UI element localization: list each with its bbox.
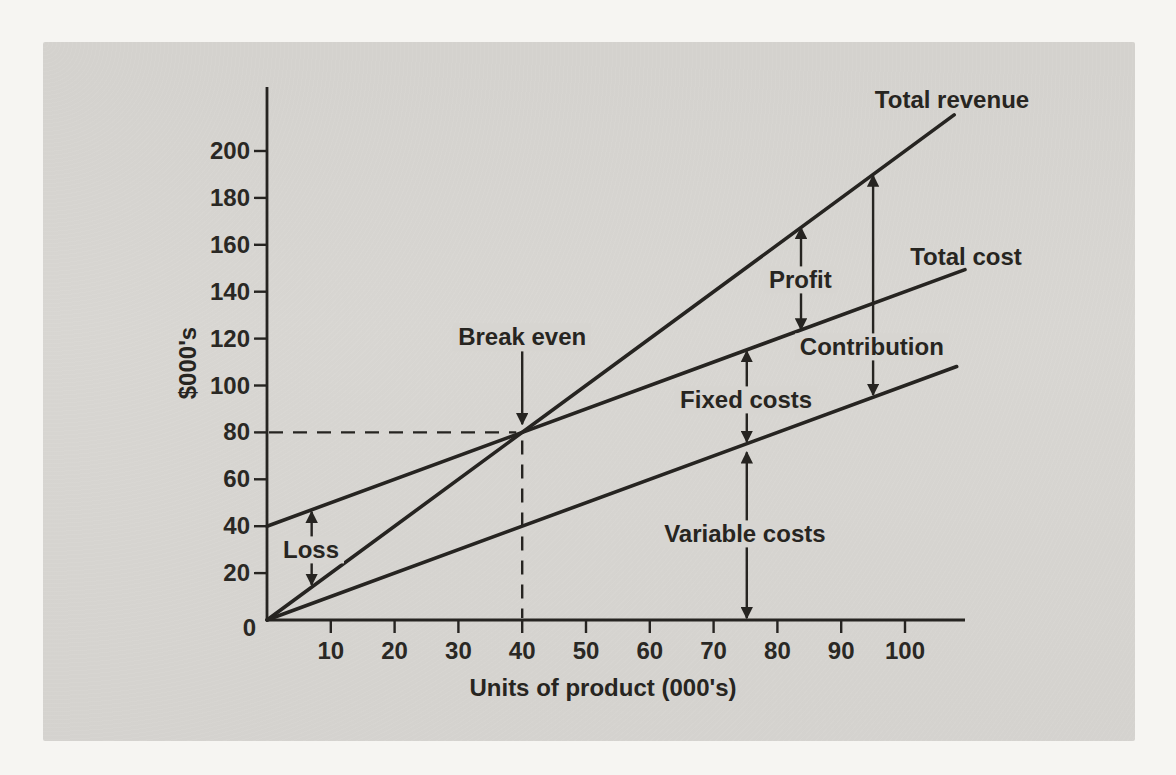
- origin-tick-label: 0: [243, 616, 256, 640]
- annotation-label-profit: Profit: [764, 266, 837, 293]
- y-tick-label-80: 80: [223, 420, 250, 444]
- y-tick-label-20: 20: [223, 561, 250, 585]
- x-tick-label-10: 10: [317, 639, 344, 663]
- annotation-label-variable-costs: Variable costs: [659, 520, 830, 547]
- y-tick-label-40: 40: [223, 514, 250, 538]
- y-tick-label-60: 60: [223, 467, 250, 491]
- y-tick-label-200: 200: [210, 139, 250, 163]
- x-axis-title: Units of product (000's): [469, 674, 736, 702]
- annotation-label-contribution: Contribution: [795, 333, 949, 360]
- annotation-label-break-even: Break even: [453, 324, 591, 351]
- series-line-total-revenue: [267, 115, 954, 620]
- x-tick-label-50: 50: [573, 639, 600, 663]
- series-label-total-revenue: Total revenue: [875, 87, 1029, 112]
- series-line-variable-costs-line: [267, 367, 957, 620]
- x-tick-label-20: 20: [381, 639, 408, 663]
- y-tick-label-160: 160: [210, 233, 250, 257]
- y-tick-label-100: 100: [210, 374, 250, 398]
- x-tick-label-40: 40: [509, 639, 536, 663]
- y-tick-label-140: 140: [210, 280, 250, 304]
- x-tick-label-70: 70: [700, 639, 727, 663]
- x-tick-label-90: 90: [828, 639, 855, 663]
- x-tick-label-80: 80: [764, 639, 791, 663]
- x-tick-label-60: 60: [636, 639, 663, 663]
- y-axis-title: $000's: [174, 327, 202, 399]
- series-label-total-cost: Total cost: [910, 244, 1022, 269]
- x-tick-label-100: 100: [885, 639, 925, 663]
- y-tick-label-120: 120: [210, 327, 250, 351]
- x-tick-label-30: 30: [445, 639, 472, 663]
- series-line-total-cost: [267, 270, 965, 527]
- y-tick-label-180: 180: [210, 186, 250, 210]
- data-lines: [267, 115, 965, 620]
- breakeven-chart-figure: 20406080100120140160180200 1020304050607…: [0, 0, 1176, 775]
- annotation-label-loss: Loss: [278, 536, 344, 563]
- annotation-label-fixed-costs: Fixed costs: [675, 386, 817, 413]
